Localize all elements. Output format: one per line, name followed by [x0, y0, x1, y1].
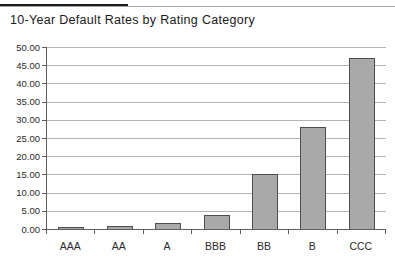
- y-axis-tick: [42, 102, 46, 103]
- gridline: [47, 47, 386, 48]
- y-axis-tick-label: 45.00: [2, 61, 40, 70]
- bar-BB: [252, 174, 278, 229]
- y-axis-tick: [42, 138, 46, 139]
- x-axis-category-label-B: B: [288, 240, 336, 252]
- y-axis-tick: [42, 83, 46, 84]
- x-axis-tick: [46, 230, 47, 234]
- gridline: [47, 102, 386, 103]
- y-axis-tick-label: 30.00: [2, 115, 40, 124]
- x-axis-category-label-A: A: [143, 240, 191, 252]
- y-axis-tick: [42, 120, 46, 121]
- y-axis-tick-label: 5.00: [2, 206, 40, 215]
- y-axis-tick: [42, 47, 46, 48]
- y-axis-tick: [42, 156, 46, 157]
- title-divider-rule: [0, 6, 395, 7]
- gridline: [47, 211, 386, 212]
- x-axis-tick: [288, 230, 289, 234]
- plot-area: [46, 47, 386, 230]
- y-axis-tick-label: 20.00: [2, 152, 40, 161]
- x-axis-tick: [94, 230, 95, 234]
- y-axis-tick-label: 35.00: [2, 97, 40, 106]
- bar-BBB: [204, 215, 230, 229]
- y-axis-tick-label: 15.00: [2, 170, 40, 179]
- bar-A: [155, 223, 181, 229]
- x-axis-tick: [385, 230, 386, 234]
- y-axis-tick-label: 0.00: [2, 225, 40, 234]
- y-axis-tick-label: 50.00: [2, 43, 40, 52]
- y-axis-tick-label: 10.00: [2, 188, 40, 197]
- bar-CCC: [349, 58, 375, 229]
- x-axis-category-label-AAA: AAA: [46, 240, 94, 252]
- x-axis-tick: [143, 230, 144, 234]
- bar-AA: [107, 226, 133, 229]
- y-axis-tick: [42, 211, 46, 212]
- x-axis-category-label-AA: AA: [95, 240, 143, 252]
- y-axis-tick: [42, 65, 46, 66]
- y-axis-tick: [42, 193, 46, 194]
- gridline: [47, 156, 386, 157]
- bar-AAA: [58, 227, 84, 229]
- gridline: [47, 174, 386, 175]
- x-axis-tick: [191, 230, 192, 234]
- y-axis-tick-label: 40.00: [2, 79, 40, 88]
- gridline: [47, 120, 386, 121]
- gridline: [47, 138, 386, 139]
- x-axis-category-label-BB: BB: [240, 240, 288, 252]
- x-axis-tick: [240, 230, 241, 234]
- gridline: [47, 193, 386, 194]
- x-axis-category-label-CCC: CCC: [337, 240, 385, 252]
- gridline: [47, 83, 386, 84]
- y-axis-tick: [42, 174, 46, 175]
- bar-B: [300, 127, 326, 229]
- chart-title: 10-Year Default Rates by Rating Category: [10, 13, 255, 27]
- x-axis-tick: [337, 230, 338, 234]
- x-axis-category-label-BBB: BBB: [192, 240, 240, 252]
- y-axis-tick-label: 25.00: [2, 134, 40, 143]
- chart-figure: 10-Year Default Rates by Rating Category…: [0, 0, 395, 260]
- gridline: [47, 65, 386, 66]
